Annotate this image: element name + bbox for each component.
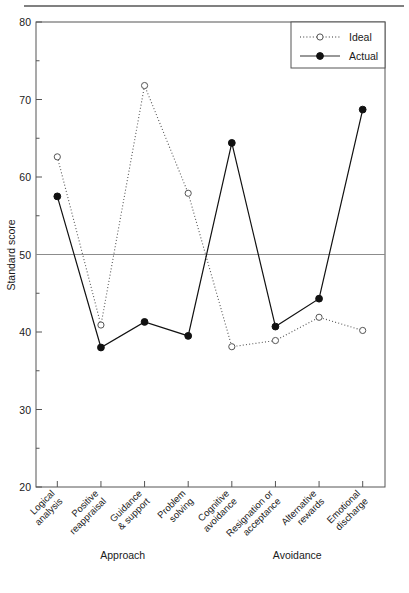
data-point [272, 337, 278, 343]
data-point [185, 190, 191, 196]
header-rule [24, 5, 404, 7]
data-point [54, 154, 60, 160]
data-point [229, 344, 235, 350]
data-point [316, 295, 323, 302]
data-point [98, 322, 104, 328]
data-point [272, 323, 279, 330]
data-point [141, 319, 148, 326]
x-group-label: Approach [100, 549, 145, 561]
data-point [359, 106, 366, 113]
series-layer [54, 82, 366, 350]
line-chart: 20304050607080 LogicalanalysisPositivere… [0, 0, 409, 593]
data-point [141, 82, 147, 88]
data-point [54, 193, 61, 200]
legend-marker [317, 53, 324, 60]
data-point [98, 344, 105, 351]
y-tick-label: 20 [19, 481, 31, 493]
x-category-label: Guidance& support [107, 487, 152, 532]
series-ideal [54, 82, 366, 349]
x-category-label: Alternativerewards [279, 487, 326, 534]
chart-legend: IdealActual [291, 22, 385, 68]
x-category-label: Positivereappraisal [59, 488, 108, 537]
x-category-label: Logicalanalysis [25, 487, 65, 527]
figure-container: 20304050607080 LogicalanalysisPositivere… [0, 0, 409, 593]
data-point [360, 327, 366, 333]
x-group-label: Avoidance [273, 549, 322, 561]
legend-marker [317, 34, 323, 40]
legend-label: Actual [349, 50, 378, 62]
y-tick-label: 70 [19, 94, 31, 106]
data-point [316, 314, 322, 320]
x-category-label: Emotionaldischarge [324, 488, 369, 533]
data-point [185, 332, 192, 339]
y-axis-title: Standard score [5, 219, 17, 290]
series-line [57, 86, 362, 347]
y-tick-label: 30 [19, 404, 31, 416]
y-axis-tick-labels: 20304050607080 [19, 16, 31, 493]
y-tick-label: 40 [19, 326, 31, 338]
x-axis-group-labels: ApproachAvoidance [100, 549, 322, 561]
x-category-label: Resignation oracceptance [224, 488, 283, 547]
x-category-label: Problemsolving [155, 488, 196, 529]
data-point [228, 140, 235, 147]
x-axis-category-labels: LogicalanalysisPositivereappraisalGuidan… [25, 487, 370, 546]
y-tick-label: 60 [19, 171, 31, 183]
legend-label: Ideal [349, 31, 372, 43]
y-tick-label: 50 [19, 249, 31, 261]
x-axis-ticks [57, 481, 362, 487]
series-line [57, 110, 362, 348]
y-tick-label: 80 [19, 16, 31, 28]
